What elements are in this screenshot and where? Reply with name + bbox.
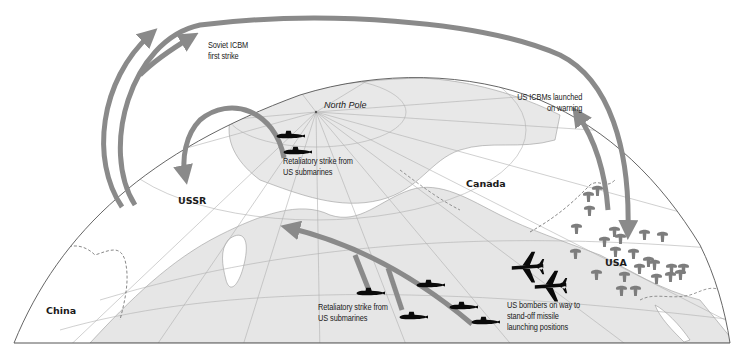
region-label-usa: USA [605, 257, 627, 268]
annotation-soviet-first-strike: Soviet ICBM first strike [208, 40, 248, 62]
annotation-retaliatory-pacific: Retaliatory strike from US submarines [318, 302, 388, 324]
nuclear-exchange-diagram: USSR Canada China USA North Pole Soviet … [0, 0, 745, 355]
north-pole-label: North Pole [324, 100, 367, 110]
region-label-china: China [46, 305, 76, 316]
north-pole-marker [315, 111, 317, 113]
annotation-retaliatory-arctic: Retaliatory strike from US submarines [283, 156, 353, 178]
region-label-ussr: USSR [178, 195, 206, 206]
annotation-us-bombers: US bombers on way to stand-off missile l… [507, 300, 580, 333]
region-label-canada: Canada [466, 178, 506, 189]
annotation-us-icbms-warning: US ICBMs launched on warning [517, 92, 582, 114]
